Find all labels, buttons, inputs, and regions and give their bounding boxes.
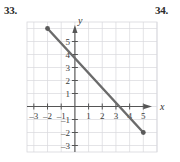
x-tick-label: –2 bbox=[42, 111, 52, 121]
x-tick-label: 1 bbox=[86, 111, 91, 121]
y-axis-arrowhead bbox=[72, 25, 77, 33]
axes bbox=[27, 25, 152, 152]
coordinate-plane: –3–2–11234554321–1–2–3 xy bbox=[27, 22, 157, 152]
y-tick-label: 1 bbox=[65, 89, 70, 99]
y-axis-label: y bbox=[77, 15, 83, 26]
figure-root: 33. 34. –3–2–11234554321–1–2–3 xy bbox=[0, 0, 180, 162]
y-tick-label: –3 bbox=[60, 141, 71, 151]
x-tick-label: 5 bbox=[141, 111, 146, 121]
y-tick-label: –1 bbox=[60, 115, 70, 125]
x-axis-arrowhead bbox=[144, 104, 152, 109]
x-tick-label: –3 bbox=[28, 111, 39, 121]
problem-number-right: 34. bbox=[155, 5, 168, 16]
x-tick-label: 3 bbox=[114, 111, 119, 121]
y-tick-label: –2 bbox=[60, 128, 70, 138]
y-tick-label: 5 bbox=[65, 37, 70, 47]
graph-svg: –3–2–11234554321–1–2–3 xy bbox=[27, 22, 157, 152]
endpoint-dot bbox=[141, 130, 146, 135]
x-tick-label: 2 bbox=[100, 111, 105, 121]
y-tick-label: 3 bbox=[65, 63, 70, 73]
endpoint-dot bbox=[45, 26, 50, 31]
problem-number-left: 33. bbox=[4, 5, 17, 16]
gridlines bbox=[27, 22, 157, 152]
axis-names: xy bbox=[77, 15, 165, 112]
x-axis-label: x bbox=[159, 101, 165, 112]
y-tick-label: 2 bbox=[65, 76, 70, 86]
